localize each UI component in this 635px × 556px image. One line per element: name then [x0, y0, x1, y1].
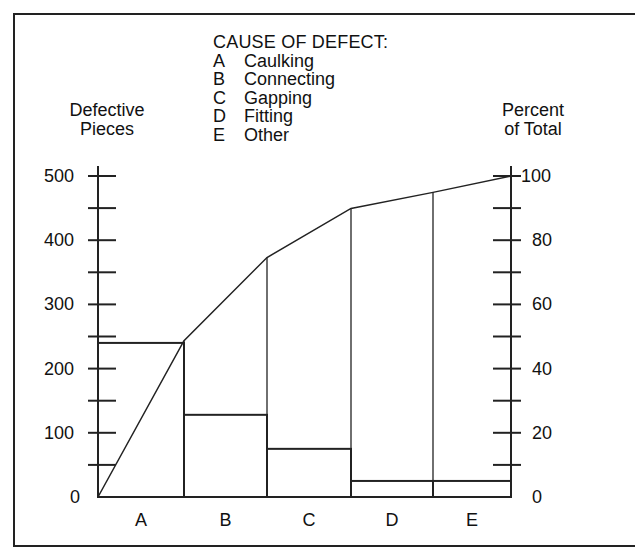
right-tick-label: 20: [532, 424, 552, 442]
left-tick-label: 400: [44, 231, 74, 249]
category-label: B: [206, 510, 246, 531]
right-tick-label: 40: [532, 360, 552, 378]
right-tick-label: 80: [532, 231, 552, 249]
right-tick-label: 60: [532, 295, 552, 313]
left-tick-label: 100: [44, 424, 74, 442]
right-tick-label: 0: [532, 488, 542, 506]
bar-D: [351, 481, 433, 497]
bar-E: [433, 481, 511, 497]
bar-B: [184, 415, 267, 497]
left-tick-label: 200: [44, 360, 74, 378]
left-tick-label: 300: [44, 295, 74, 313]
left-tick-label: 500: [44, 167, 74, 185]
category-label: E: [452, 510, 492, 531]
category-label: D: [372, 510, 412, 531]
bar-C: [267, 449, 351, 497]
right-tick-label: 100: [521, 167, 551, 185]
category-label: A: [121, 510, 161, 531]
left-tick-label: 0: [70, 488, 80, 506]
category-label: C: [289, 510, 329, 531]
